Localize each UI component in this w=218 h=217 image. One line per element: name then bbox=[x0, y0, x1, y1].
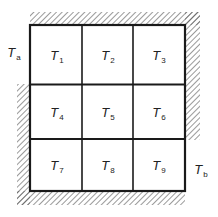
cell-label-t4: T4 bbox=[50, 105, 63, 122]
cell-label-t5: T5 bbox=[101, 105, 114, 122]
insulation-right bbox=[185, 12, 200, 140]
boundary-label-left: Ta bbox=[7, 45, 20, 62]
cell-label-t8: T8 bbox=[101, 158, 114, 175]
cell-label-t2: T2 bbox=[101, 48, 114, 65]
cell-label-t9: T9 bbox=[152, 158, 165, 175]
cell-label-t3: T3 bbox=[152, 48, 165, 65]
cell-label-t7: T7 bbox=[50, 158, 63, 175]
insulation-top bbox=[30, 12, 200, 25]
cell-label-t1: T1 bbox=[50, 48, 63, 65]
insulation-bottom bbox=[17, 191, 185, 205]
insulation-left bbox=[17, 84, 30, 205]
boundary-label-right: Tb bbox=[194, 162, 207, 179]
cell-label-t6: T6 bbox=[152, 105, 165, 122]
